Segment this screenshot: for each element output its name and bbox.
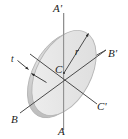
figure-drawing — [0, 0, 128, 139]
label-axis-a-prime: A' — [53, 3, 62, 14]
label-axis-c-prime: C' — [97, 101, 107, 112]
center-point — [63, 72, 65, 74]
disk-axes-figure: A' B' C' A B C r t — [0, 0, 128, 139]
label-radius-r: r — [75, 48, 79, 58]
label-thickness-t: t — [11, 55, 14, 65]
label-axis-a: A — [58, 126, 65, 137]
thickness-leader-upper — [18, 61, 29, 70]
label-center-c: C — [55, 64, 62, 75]
label-axis-b: B — [11, 114, 18, 125]
label-axis-b-prime: B' — [108, 48, 117, 59]
